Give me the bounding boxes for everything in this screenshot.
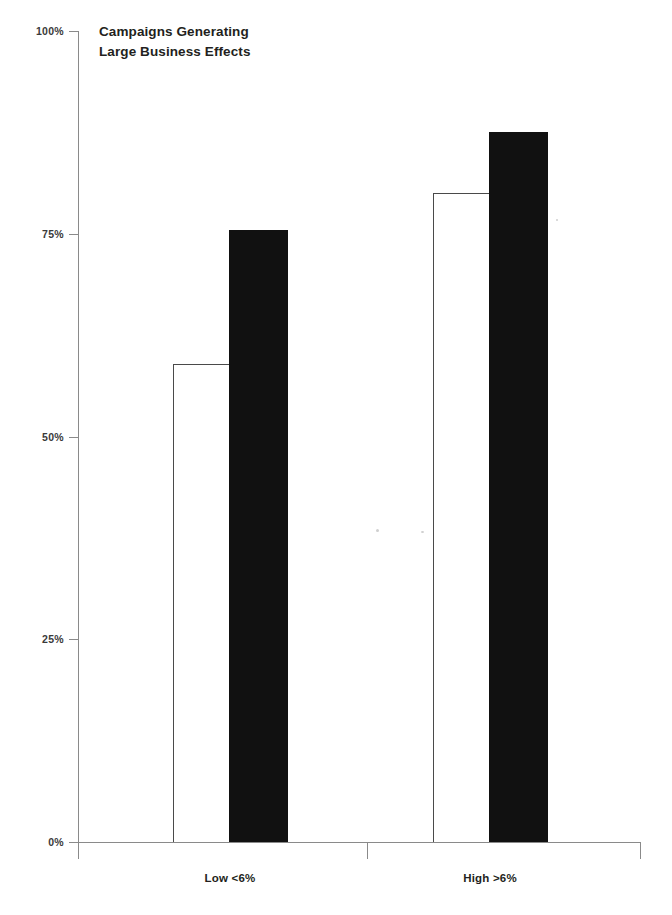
bar-high-solid — [489, 132, 548, 842]
y-axis-label-0: 0% — [48, 836, 64, 848]
y-axis-label-100: 100% — [36, 25, 64, 37]
plot-area — [78, 31, 640, 842]
scan-speckle — [421, 531, 424, 533]
bar-high-open — [433, 193, 490, 842]
x-axis-line — [78, 842, 640, 843]
bar-low-solid — [229, 230, 288, 842]
x-axis-tick-left — [78, 842, 79, 859]
x-axis-tick-right — [640, 842, 641, 859]
y-axis-tick-75 — [69, 234, 78, 235]
x-axis-category-label-high: High >6% — [463, 872, 517, 884]
y-axis-tick-0 — [69, 842, 78, 843]
scan-speckle — [556, 219, 558, 221]
x-axis-category-label-low: Low <6% — [205, 872, 256, 884]
y-axis-label-50: 50% — [42, 431, 64, 443]
y-axis-tick-50 — [69, 437, 78, 438]
bar-low-open — [173, 364, 231, 842]
y-axis-tick-100 — [69, 31, 78, 32]
y-axis-label-25: 25% — [42, 633, 64, 645]
scan-speckle — [376, 529, 379, 532]
y-axis-label-75: 75% — [42, 228, 64, 240]
x-axis-tick-middle — [367, 842, 368, 859]
bar-chart-figure: Campaigns Generating Large Business Effe… — [0, 0, 672, 915]
y-axis-tick-25 — [69, 639, 78, 640]
